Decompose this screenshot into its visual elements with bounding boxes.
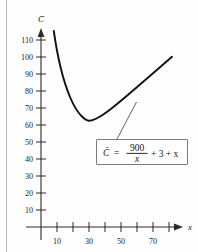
formula-numerator: 900 xyxy=(130,143,145,153)
annotation-leader-line xyxy=(117,102,137,139)
y-axis-label: C̄ xyxy=(38,14,45,24)
x-tick-label-50: 50 xyxy=(117,237,125,246)
y-tick-label-80: 80 xyxy=(25,87,33,96)
x-tick-label-30: 30 xyxy=(85,237,93,246)
y-tick-label-40: 40 xyxy=(25,155,33,164)
y-tick-label-20: 20 xyxy=(25,189,33,198)
figure-container: 110 100 90 80 70 60 50 40 30 20 10 10 30 xyxy=(0,0,198,252)
x-tick-label-10: 10 xyxy=(53,237,61,246)
formula-denominator: x xyxy=(134,154,140,164)
x-axis-label: x xyxy=(187,222,192,232)
y-tick-label-100: 100 xyxy=(21,53,33,62)
y-axis-arrow-icon xyxy=(38,28,45,37)
y-tick-label-110: 110 xyxy=(21,36,33,45)
axes-group xyxy=(26,28,183,240)
y-tick-label-70: 70 xyxy=(25,104,33,113)
y-axis-tick-labels: 110 100 90 80 70 60 50 40 30 20 10 xyxy=(21,36,33,215)
y-tick-label-90: 90 xyxy=(25,70,33,79)
x-axis-tick-labels: 10 30 50 70 xyxy=(53,237,157,246)
average-cost-curve xyxy=(54,31,172,121)
average-cost-curve-chart: 110 100 90 80 70 60 50 40 30 20 10 10 30 xyxy=(0,0,198,252)
y-tick-label-50: 50 xyxy=(25,138,33,147)
page-edge-rule xyxy=(6,0,7,252)
x-tick-label-70: 70 xyxy=(149,237,157,246)
formula-annotation: C̄ = 900 x + 3 + x xyxy=(97,140,188,165)
formula-equals-sign: = xyxy=(114,148,119,158)
x-axis-arrow-icon xyxy=(174,224,183,231)
formula-left-side: C̄ xyxy=(103,147,110,158)
formula-tail: + 3 + x xyxy=(151,149,179,159)
y-tick-label-10: 10 xyxy=(25,206,33,215)
y-tick-label-60: 60 xyxy=(25,121,33,130)
y-tick-label-30: 30 xyxy=(25,172,33,181)
